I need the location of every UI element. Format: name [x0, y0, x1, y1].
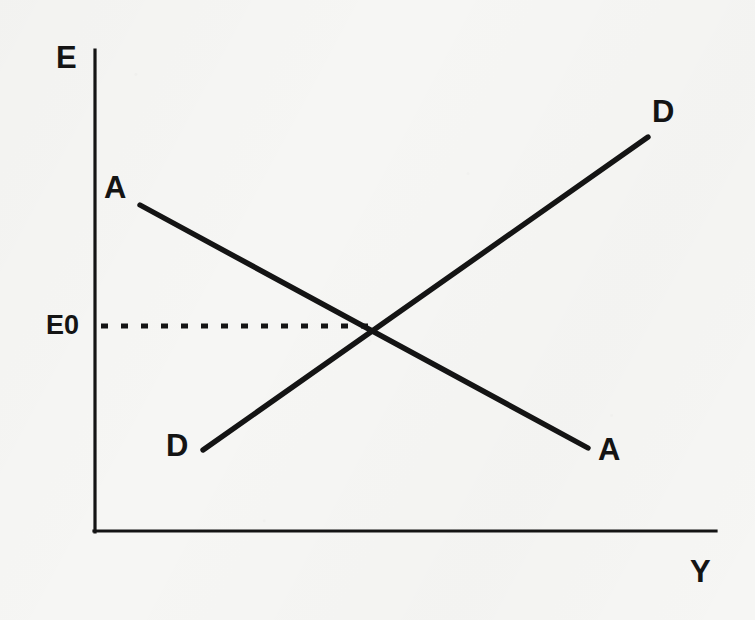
- keynesian-cross-figure: E Y E0 A A D D: [0, 0, 755, 620]
- aa-curve-end-label: A: [598, 434, 620, 465]
- plot-canvas: [0, 0, 755, 620]
- equilibrium-level-label: E0: [46, 312, 79, 339]
- x-axis-label: Y: [690, 556, 711, 587]
- dd-curve-end-label: D: [652, 96, 674, 127]
- dd-curve: [203, 137, 648, 450]
- aa-curve-start-label: A: [104, 172, 126, 203]
- y-axis-label: E: [56, 42, 77, 73]
- dd-curve-start-label: D: [166, 430, 188, 461]
